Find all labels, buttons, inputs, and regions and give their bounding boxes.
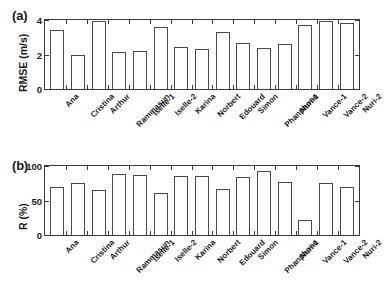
x-tick-mark <box>275 85 276 89</box>
x-tick-mark <box>171 85 172 89</box>
x-tick-mark <box>275 166 276 170</box>
panel-b-plot-area: 050100 <box>44 165 360 236</box>
bar-vance-1[interactable] <box>298 220 312 235</box>
bar-cell <box>68 20 89 89</box>
x-tick-mark <box>317 166 318 170</box>
x-tick-mark <box>108 166 109 170</box>
bar-cell <box>47 166 68 235</box>
bar-arthur[interactable] <box>92 21 106 89</box>
x-tick-mark <box>212 20 213 24</box>
bar-cristina[interactable] <box>71 183 85 235</box>
x-tick-mark <box>233 85 234 89</box>
bar-simon[interactable] <box>236 43 250 89</box>
x-tick-mark <box>212 85 213 89</box>
bar-cell <box>150 166 171 235</box>
x-tick-mark <box>150 231 151 235</box>
bar-nuri-2[interactable] <box>340 23 354 89</box>
x-tick-mark <box>66 166 67 170</box>
panel-a-rmse: (a) RMSE (m/s) 024 AnaCristinaArthurRamm… <box>0 0 364 148</box>
x-tick-mark <box>87 166 88 170</box>
y-tick-mark-right <box>355 166 359 167</box>
y-tick-mark-right <box>355 89 359 90</box>
x-tick-mark <box>129 85 130 89</box>
x-tick-mark <box>150 166 151 170</box>
bar-cell <box>47 20 68 89</box>
x-tick-mark <box>254 231 255 235</box>
bar-cell <box>233 20 254 89</box>
x-tick-mark <box>171 231 172 235</box>
bar-cell <box>336 166 357 235</box>
x-tick-mark <box>87 231 88 235</box>
bar-karina[interactable] <box>174 176 188 235</box>
x-tick-mark <box>212 231 213 235</box>
panel-a-category-labels: AnaCristinaArthurRammasunIselle-1Iselle-… <box>44 92 360 144</box>
bar-nuri-2[interactable] <box>340 187 354 235</box>
y-tick-mark <box>45 20 49 21</box>
bar-ana[interactable] <box>50 187 64 235</box>
bar-iselle-1[interactable] <box>133 51 147 89</box>
x-label-nuri-1: Nuri-1 <box>298 92 321 115</box>
bar-cristina[interactable] <box>71 55 85 90</box>
bar-nuri-1[interactable] <box>278 182 292 235</box>
bar-vance-1[interactable] <box>298 25 312 89</box>
x-tick-mark <box>338 85 339 89</box>
bar-edouard[interactable] <box>216 189 230 235</box>
bar-cell <box>212 166 233 235</box>
x-tick-mark <box>296 231 297 235</box>
panel-b-correlation: (b) R (%) 050100 AnaCristinaArthurRammas… <box>0 148 364 295</box>
bar-cell <box>68 166 89 235</box>
y-tick-label: 50 <box>31 195 42 206</box>
x-tick-mark <box>233 166 234 170</box>
y-tick-mark-right <box>355 55 359 56</box>
bar-cell <box>171 166 192 235</box>
x-tick-mark <box>129 166 130 170</box>
bar-nuri-1[interactable] <box>278 44 292 89</box>
bar-norbert[interactable] <box>195 176 209 235</box>
bar-phanphone[interactable] <box>257 48 271 89</box>
x-tick-mark <box>275 20 276 24</box>
bar-cell <box>254 166 275 235</box>
bar-rammasun[interactable] <box>112 174 126 235</box>
bar-cell <box>88 20 109 89</box>
y-tick-mark-right <box>355 201 359 202</box>
x-tick-mark <box>212 166 213 170</box>
bar-rammasun[interactable] <box>112 52 126 89</box>
x-tick-mark <box>129 20 130 24</box>
bar-iselle-1[interactable] <box>133 175 147 235</box>
bar-cell <box>316 20 337 89</box>
x-tick-mark <box>338 231 339 235</box>
x-tick-mark <box>129 231 130 235</box>
x-tick-mark <box>275 231 276 235</box>
x-tick-mark <box>296 166 297 170</box>
bar-cell <box>88 166 109 235</box>
x-tick-mark <box>254 85 255 89</box>
x-tick-mark <box>233 231 234 235</box>
bar-cell <box>109 166 130 235</box>
x-tick-mark <box>254 20 255 24</box>
bar-ana[interactable] <box>50 30 64 89</box>
bar-cell <box>295 166 316 235</box>
bar-norbert[interactable] <box>195 49 209 89</box>
bar-cell <box>233 166 254 235</box>
x-label-iselle-2: Iselle-2 <box>172 92 198 118</box>
bar-simon[interactable] <box>236 177 250 235</box>
bar-iselle-2[interactable] <box>154 27 168 89</box>
bar-vance-2[interactable] <box>319 183 333 235</box>
x-tick-mark <box>317 231 318 235</box>
bar-cell <box>109 20 130 89</box>
bar-cell <box>171 20 192 89</box>
bar-vance-2[interactable] <box>319 21 333 89</box>
bar-phanphone[interactable] <box>257 171 271 235</box>
bar-karina[interactable] <box>174 47 188 89</box>
bar-iselle-2[interactable] <box>154 193 168 235</box>
bar-cell <box>150 20 171 89</box>
x-tick-mark <box>108 231 109 235</box>
bar-arthur[interactable] <box>92 190 106 235</box>
bar-cell <box>254 20 275 89</box>
x-tick-mark <box>150 20 151 24</box>
y-tick-mark <box>45 201 49 202</box>
x-tick-mark <box>192 20 193 24</box>
x-tick-mark <box>296 85 297 89</box>
x-label-ana: Ana <box>64 92 81 109</box>
bar-edouard[interactable] <box>216 32 230 89</box>
